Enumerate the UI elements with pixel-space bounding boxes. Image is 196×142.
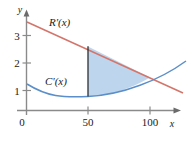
x-tick-label-100: 100 <box>142 116 159 128</box>
y-tick-label-2: 2 <box>14 57 20 69</box>
graph-figure: 3 2 1 0 50 100 y x R'(x) C'(x) <box>0 0 196 142</box>
y-tick-label-3: 3 <box>14 30 20 42</box>
revenue-derivative-label: R'(x) <box>48 16 71 29</box>
y-axis-label: y <box>17 4 23 15</box>
y-tick-label-1: 1 <box>14 85 20 97</box>
x-axis-arrow <box>174 107 182 113</box>
x-axis-label: x <box>169 118 175 129</box>
x-tick-label-50: 50 <box>83 116 95 128</box>
graph-svg: 3 2 1 0 50 100 y x R'(x) C'(x) <box>0 0 196 142</box>
cost-derivative-label: C'(x) <box>45 75 67 88</box>
y-axis-arrow <box>24 10 30 17</box>
origin-label: 0 <box>19 116 25 128</box>
